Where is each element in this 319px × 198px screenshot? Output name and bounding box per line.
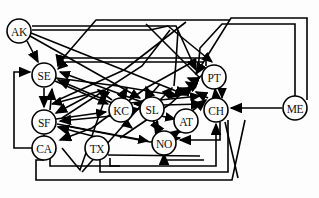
node-label-SL: SL bbox=[146, 104, 159, 116]
edge-ak-se bbox=[27, 41, 38, 62]
node-label-PT: PT bbox=[208, 72, 221, 84]
node-SF[interactable]: SF bbox=[32, 110, 56, 134]
edge-ak-ch-long bbox=[31, 33, 186, 95]
node-NO[interactable]: NO bbox=[152, 131, 176, 155]
edge-ca-se-left bbox=[14, 72, 33, 148]
edge-ch-pt bbox=[215, 89, 216, 98]
edge-right-down bbox=[225, 122, 238, 178]
graph-canvas: AK SE SF CA TX KC bbox=[0, 0, 319, 198]
node-CA[interactable]: CA bbox=[32, 136, 56, 160]
node-CH[interactable]: CH bbox=[204, 98, 228, 122]
graph-svg: AK SE SF CA TX KC bbox=[0, 0, 319, 198]
edge-layer bbox=[14, 18, 307, 180]
node-label-CH: CH bbox=[208, 105, 223, 117]
node-AK[interactable]: AK bbox=[7, 19, 31, 43]
node-label-KC: KC bbox=[113, 105, 129, 117]
node-SE[interactable]: SE bbox=[32, 63, 56, 87]
edge-in-ch-1 bbox=[196, 92, 208, 98]
node-SL[interactable]: SL bbox=[140, 97, 164, 121]
edge-no-sl bbox=[154, 122, 160, 132]
node-PT[interactable]: PT bbox=[202, 65, 226, 89]
edge-kc-ch bbox=[130, 96, 200, 103]
node-label-AT: AT bbox=[179, 116, 193, 128]
edge-tx-right bbox=[108, 155, 200, 156]
node-label-SE: SE bbox=[38, 70, 51, 82]
node-label-ME: ME bbox=[287, 103, 304, 115]
node-AT[interactable]: AT bbox=[174, 109, 198, 133]
node-label-AK: AK bbox=[11, 26, 28, 38]
node-label-NO: NO bbox=[156, 138, 172, 150]
edge-sl-at bbox=[161, 116, 175, 119]
node-label-SF: SF bbox=[38, 117, 50, 129]
node-label-CA: CA bbox=[36, 143, 52, 155]
node-ME[interactable]: ME bbox=[283, 96, 307, 120]
node-label-TX: TX bbox=[90, 143, 106, 155]
node-KC[interactable]: KC bbox=[109, 98, 133, 122]
node-TX[interactable]: TX bbox=[85, 136, 109, 160]
edge-sf-se bbox=[50, 89, 52, 110]
